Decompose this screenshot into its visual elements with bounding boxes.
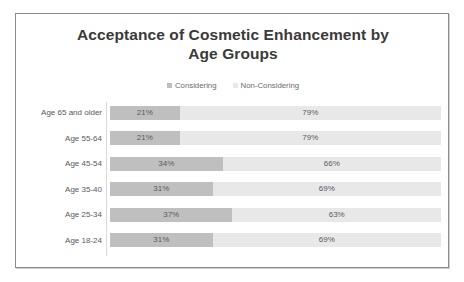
bar-segment-non-considering-4[interactable]: 63%: [232, 208, 441, 222]
bar-segment-non-considering-2[interactable]: 66%: [223, 157, 441, 171]
bar-segment-non-considering-5[interactable]: 69%: [213, 233, 441, 247]
bar-segment-considering-2[interactable]: 34%: [110, 157, 223, 171]
bar-row: Age 35-40 31% 69%: [16, 177, 450, 203]
bar-track-4: 37% 63%: [110, 208, 441, 222]
legend-item-considering[interactable]: Considering: [167, 81, 217, 90]
bar-row: Age 55-64 21% 79%: [16, 126, 450, 152]
bar-row: Age 25-34 37% 63%: [16, 202, 450, 228]
legend-item-non-considering[interactable]: Non-Considering: [233, 81, 300, 90]
category-label-4: Age 25-34: [16, 210, 106, 219]
bar-value-non-considering-1: 79%: [302, 134, 318, 142]
chart-legend: Considering Non-Considering: [16, 81, 450, 90]
bar-value-considering-4: 37%: [163, 211, 179, 219]
bar-segment-non-considering-3[interactable]: 69%: [213, 182, 441, 196]
chart-title-line-1: Acceptance of Cosmetic Enhancement by: [16, 25, 450, 44]
bar-track-0: 21% 79%: [110, 106, 441, 120]
plot-area: Age 65 and older 21% 79% Age 55-64 21% 7…: [16, 100, 450, 260]
bar-value-considering-2: 34%: [158, 160, 174, 168]
bar-segment-considering-1[interactable]: 21%: [110, 131, 180, 145]
bar-value-non-considering-2: 66%: [324, 160, 340, 168]
chart-frame: Acceptance of Cosmetic Enhancement by Ag…: [15, 13, 449, 268]
chart-title-line-2: Age Groups: [16, 44, 450, 63]
bar-value-non-considering-4: 63%: [329, 211, 345, 219]
bar-value-non-considering-5: 69%: [319, 236, 335, 244]
bar-track-2: 34% 66%: [110, 157, 441, 171]
bar-segment-non-considering-1[interactable]: 79%: [180, 131, 441, 145]
bar-value-considering-5: 31%: [153, 236, 169, 244]
bar-track-3: 31% 69%: [110, 182, 441, 196]
bar-segment-non-considering-0[interactable]: 79%: [180, 106, 441, 120]
bar-segment-considering-4[interactable]: 37%: [110, 208, 232, 222]
legend-label-non-considering: Non-Considering: [241, 81, 300, 90]
bar-row: Age 65 and older 21% 79%: [16, 100, 450, 126]
bar-value-considering-0: 21%: [137, 109, 153, 117]
bar-value-non-considering-3: 69%: [319, 185, 335, 193]
bar-track-1: 21% 79%: [110, 131, 441, 145]
bar-segment-considering-3[interactable]: 31%: [110, 182, 213, 196]
category-label-0: Age 65 and older: [16, 108, 106, 117]
legend-label-considering: Considering: [175, 81, 217, 90]
bar-track-5: 31% 69%: [110, 233, 441, 247]
category-label-5: Age 18-24: [16, 236, 106, 245]
bar-segment-considering-5[interactable]: 31%: [110, 233, 213, 247]
category-label-1: Age 55-64: [16, 134, 106, 143]
category-label-3: Age 35-40: [16, 185, 106, 194]
chart-title: Acceptance of Cosmetic Enhancement by Ag…: [16, 25, 450, 63]
bar-row: Age 18-24 31% 69%: [16, 228, 450, 254]
bar-segment-considering-0[interactable]: 21%: [110, 106, 180, 120]
legend-swatch-considering: [167, 83, 172, 88]
bar-value-considering-1: 21%: [137, 134, 153, 142]
category-label-2: Age 45-54: [16, 159, 106, 168]
bar-value-non-considering-0: 79%: [302, 109, 318, 117]
bar-value-considering-3: 31%: [153, 185, 169, 193]
bar-row: Age 45-54 34% 66%: [16, 151, 450, 177]
legend-swatch-non-considering: [233, 83, 238, 88]
